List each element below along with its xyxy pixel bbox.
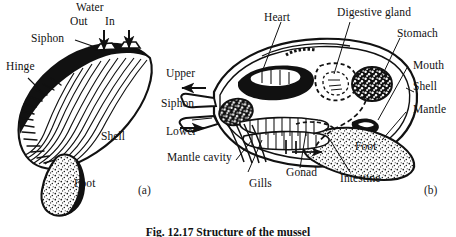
label-mantle-cavity: Mantle cavity	[167, 152, 232, 164]
label-shell-b: Shell	[413, 81, 437, 93]
stomach-b	[352, 67, 392, 101]
label-mantle: Mantle	[413, 104, 446, 116]
label-gonad: Gonad	[286, 167, 317, 179]
label-shell-a: Shell	[101, 131, 125, 143]
label-water-out: Out	[70, 16, 88, 28]
figure-caption: Fig. 12.17 Structure of the mussel	[0, 226, 456, 237]
label-siphon-b: Siphon	[161, 98, 194, 110]
panel-label-b: (b)	[424, 184, 437, 196]
label-lower-siphon: Lower	[166, 126, 197, 138]
label-foot-b: Foot	[355, 141, 377, 153]
figure-artwork	[0, 0, 456, 237]
label-water: Water	[76, 2, 104, 14]
panel-label-a: (a)	[138, 184, 151, 196]
label-water-in: In	[105, 16, 115, 28]
leader-siphon-a	[75, 40, 98, 48]
label-gills: Gills	[249, 178, 272, 190]
label-intestine: Intestine	[340, 173, 381, 185]
label-heart: Heart	[264, 12, 290, 24]
label-siphon-a: Siphon	[31, 33, 64, 45]
label-foot-a: Foot	[74, 178, 96, 190]
label-upper-siphon: Upper	[166, 68, 195, 80]
label-hinge: Hinge	[6, 61, 35, 73]
figure-mussel-anatomy: Water Out In Siphon Hinge Shell Foot (a)…	[0, 0, 456, 237]
label-stomach: Stomach	[397, 28, 438, 40]
label-digestive-gland: Digestive gland	[337, 7, 411, 19]
label-mouth: Mouth	[413, 60, 444, 72]
